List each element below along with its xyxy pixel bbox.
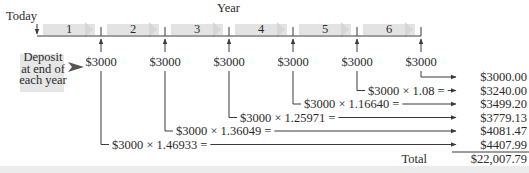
calc-expression: $3000 × 1.08 =: [368, 84, 445, 98]
deposit-amount: $3000: [85, 55, 116, 69]
period-label: 2: [130, 22, 136, 36]
period-label: 4: [258, 22, 265, 36]
calc-result: $3499.20: [480, 97, 527, 111]
calc-expression: $3000 × 1.36049 =: [176, 124, 271, 138]
total-label: Total: [401, 152, 427, 166]
period-label: 3: [194, 22, 200, 36]
calc-result: $3000.00: [480, 70, 527, 84]
deposit-pointer-icon: [68, 62, 84, 72]
calc-expression: $3000 × 1.46933 =: [112, 138, 207, 152]
year-axis-label: Year: [217, 1, 241, 15]
period-label: 6: [386, 22, 392, 36]
calc-expression: $3000 × 1.16640 =: [304, 97, 399, 111]
deposit-amount: $3000: [149, 55, 180, 69]
deposit-amount: $3000: [405, 55, 436, 69]
period-label: 5: [322, 22, 328, 36]
deposit-amount: $3000: [213, 55, 244, 69]
deposit-amount: $3000: [341, 55, 372, 69]
calc-result: $3240.00: [480, 84, 527, 98]
today-label: Today: [6, 9, 38, 23]
period-label: 1: [66, 22, 72, 36]
calc-expression: $3000 × 1.25971 =: [240, 111, 335, 125]
footer-band: [0, 166, 529, 173]
deposit-amount: $3000: [277, 55, 308, 69]
total-value: $22,007.79: [471, 152, 527, 166]
future-value-timeline-diagram: Today Year 123456 $3000$3000$3000$3000$3…: [0, 0, 529, 173]
calc-result: $4407.99: [480, 138, 527, 152]
calc-result: $3779.13: [480, 111, 527, 125]
calc-result: $4081.47: [480, 124, 527, 138]
